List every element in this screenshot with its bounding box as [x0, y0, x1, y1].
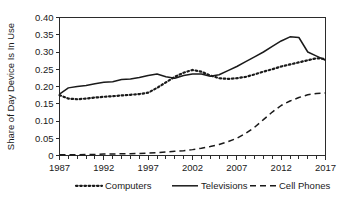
x-tick-label: 1997	[138, 162, 159, 173]
series-line-cell-phones	[60, 93, 326, 155]
x-tick-label: 2007	[226, 162, 247, 173]
y-tick-label: 0.20	[35, 81, 54, 92]
line-chart: 0.400.350.300.250.200.150.100.0501987199…	[0, 0, 346, 202]
x-tick-label: 1987	[49, 162, 70, 173]
y-tick-label: 0.25	[35, 64, 54, 75]
y-axis-title: Share of Day Device Is In Use	[5, 23, 16, 150]
series-line-computers	[60, 58, 326, 99]
x-tick-label: 1992	[93, 162, 114, 173]
y-tick-label: 0.30	[35, 46, 54, 57]
y-tick-label: 0.35	[35, 29, 54, 40]
legend-label-televisions: Televisions	[201, 180, 248, 191]
y-tick-label: 0.15	[35, 98, 54, 109]
legend-label-computers: Computers	[105, 180, 152, 191]
y-tick-label: 0	[48, 150, 53, 161]
x-tick-label: 2017	[315, 162, 336, 173]
y-tick-label: 0.05	[35, 133, 54, 144]
y-tick-label: 0.40	[35, 12, 54, 23]
legend-label-cell-phones: Cell Phones	[279, 180, 330, 191]
chart-figure: 0.400.350.300.250.200.150.100.0501987199…	[0, 0, 346, 202]
x-tick-label: 2012	[271, 162, 292, 173]
y-tick-label: 0.10	[35, 115, 54, 126]
x-tick-label: 2002	[182, 162, 203, 173]
